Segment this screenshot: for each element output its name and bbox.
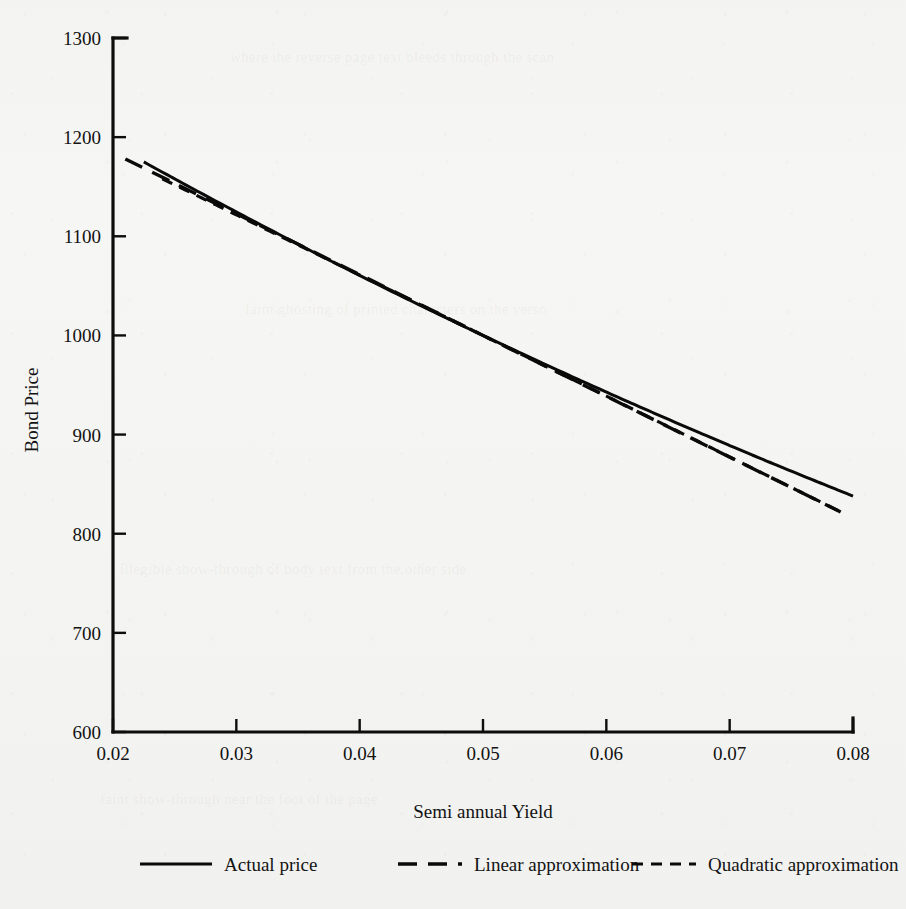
x-tick-label: 0.02: [96, 743, 129, 764]
x-tick-label: 0.04: [343, 743, 377, 764]
x-tick-label: 0.03: [220, 743, 253, 764]
y-tick-label: 700: [73, 623, 102, 644]
y-axis-tick-labels: 6007008009001000110012001300: [63, 28, 101, 743]
x-tick-label: 0.07: [713, 743, 746, 764]
y-tick-label: 1100: [64, 226, 101, 247]
y-tick-label: 1000: [63, 325, 101, 346]
y-tick-label: 1300: [63, 28, 101, 49]
legend-label: Linear approximation: [474, 854, 640, 875]
legend-label: Actual price: [224, 854, 317, 875]
series-actual-price: [144, 162, 853, 496]
scanned-page: where the reverse page text bleeds throu…: [0, 0, 906, 909]
y-tick-label: 800: [73, 524, 102, 545]
x-tick-label: 0.05: [466, 743, 499, 764]
legend-label: Quadratic approximation: [708, 854, 899, 875]
y-axis-ticks: [113, 38, 126, 732]
x-tick-label: 0.06: [590, 743, 623, 764]
x-tick-label: 0.08: [836, 743, 869, 764]
data-series-group: [125, 159, 853, 512]
chart-legend: Actual priceLinear approximationQuadrati…: [140, 854, 899, 875]
x-axis-ticks: [113, 719, 853, 732]
bond-price-chart: 6007008009001000110012001300 0.020.030.0…: [0, 0, 906, 909]
y-axis-title: Bond Price: [21, 368, 42, 453]
x-axis-tick-labels: 0.020.030.040.050.060.070.08: [96, 743, 869, 764]
y-tick-label: 900: [73, 425, 102, 446]
y-tick-label: 1200: [63, 127, 101, 148]
y-tick-label: 600: [73, 722, 102, 743]
x-axis-title: Semi annual Yield: [413, 801, 553, 822]
